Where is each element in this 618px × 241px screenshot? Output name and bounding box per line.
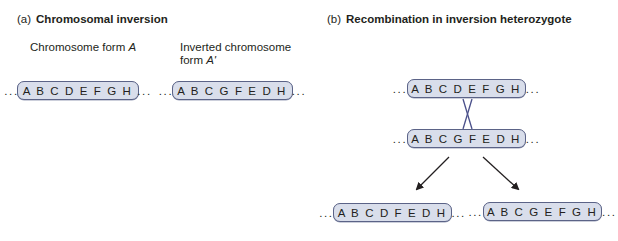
product-left: ... A B C D F E D H ... [333,203,452,222]
chromosome-bottom: ... A B C G F E D H ... [407,129,526,148]
chromosome-top: ... A B C D E F G H ... [407,79,526,98]
arrow-left-icon [417,157,449,189]
arrow-right-icon [483,157,518,189]
crossover-icon [463,99,472,129]
product-right: ... A B C G E F G H ... [483,202,602,221]
